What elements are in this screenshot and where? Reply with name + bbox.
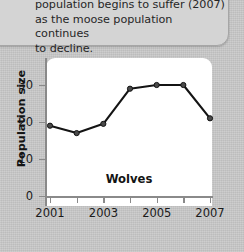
data-point-2003 (101, 121, 106, 126)
callout-box: population begins to suffer (2007) as th… (0, 0, 229, 46)
data-line (50, 85, 210, 133)
population-line-chart: 30 20 10 0 2001 2003 2005 2007 Populatio… (0, 50, 244, 252)
data-point-2007 (207, 116, 212, 121)
callout-text: population begins to suffer (2007) as th… (35, 0, 225, 56)
data-point-2006 (181, 82, 186, 87)
data-point-2005 (154, 82, 159, 87)
data-point-2002 (74, 131, 79, 136)
data-point-2004 (127, 86, 132, 91)
data-line-group (0, 50, 244, 252)
data-point-2001 (47, 123, 52, 128)
